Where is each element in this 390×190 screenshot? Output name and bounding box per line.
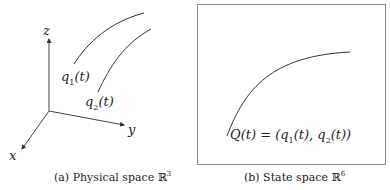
Q-label: Q(t) = (q1(t), q2(t)) [230,127,351,145]
q2-label: q2(t) [85,94,114,112]
y-axis-label: y [128,122,135,137]
q1-label: q1(t) [61,69,90,87]
z-axis-label: z [43,23,50,38]
curve-q1 [74,13,144,64]
curve-Q [227,52,350,136]
x-axis-label: x [9,148,16,163]
curve-q2 [98,29,151,92]
y-axis [49,111,124,125]
caption-b: (b) State space ℝ6 [244,170,345,184]
diagram-canvas [0,0,390,190]
caption-a: (a) Physical space ℝ3 [54,170,171,184]
x-axis [22,111,49,149]
